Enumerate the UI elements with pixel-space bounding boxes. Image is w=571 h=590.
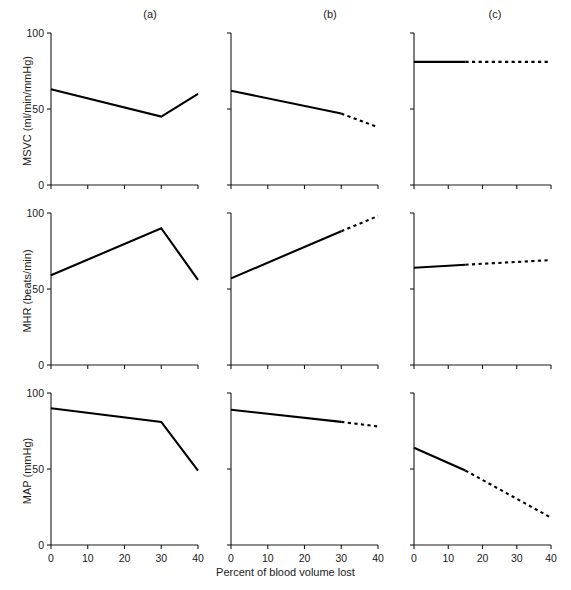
panel-c-msvc <box>410 33 551 189</box>
axis-spines <box>414 393 551 545</box>
data-line-measured <box>231 410 341 422</box>
x-tick-label: 20 <box>119 552 131 564</box>
data-line-measured <box>51 408 198 470</box>
y-tick-label: 50 <box>32 103 44 115</box>
x-tick-label: 20 <box>477 552 489 564</box>
x-tick-label: 30 <box>155 552 167 564</box>
y-tick-label: 0 <box>38 179 44 191</box>
y-tick-label: 50 <box>32 463 44 475</box>
data-line-measured <box>51 89 198 116</box>
y-tick-label: 50 <box>32 283 44 295</box>
axis-spines <box>51 213 198 365</box>
panel-a-msvc: 050100 <box>26 27 198 191</box>
data-line-measured <box>231 231 341 278</box>
axis-spines <box>231 213 378 365</box>
xlabel-percent-blood-volume-lost: Percent of blood volume lost <box>0 566 571 578</box>
panel-label-a: (a) <box>80 8 220 20</box>
data-line-extrapolated <box>465 471 551 518</box>
data-line-extrapolated <box>465 260 551 265</box>
figure-panel-grid: (a) (b) (c) MSVC (ml/min/mmHg) MHR (beat… <box>0 0 571 590</box>
x-tick-label: 0 <box>228 552 234 564</box>
data-line-extrapolated <box>341 422 378 427</box>
x-tick-label: 0 <box>411 552 417 564</box>
x-tick-label: 10 <box>82 552 94 564</box>
y-tick-label: 0 <box>38 359 44 371</box>
ylabel-map: MAP (mmHg) <box>21 396 33 546</box>
x-tick-label: 10 <box>442 552 454 564</box>
panel-a-map: 050100010203040 <box>26 387 204 564</box>
axis-spines <box>51 393 198 545</box>
axis-spines <box>231 33 378 185</box>
ylabel-msvc: MSVC (ml/min/mmHg) <box>21 36 33 186</box>
panel-b-msvc <box>227 33 378 189</box>
panel-b-mhr <box>227 213 378 369</box>
panel-c-mhr <box>410 213 551 369</box>
x-tick-label: 20 <box>299 552 311 564</box>
axis-spines <box>414 213 551 365</box>
data-line-extrapolated <box>341 216 378 231</box>
panel-b-map: 010203040 <box>227 393 384 564</box>
data-line-measured <box>414 265 465 268</box>
axis-spines <box>51 33 198 185</box>
x-tick-label: 40 <box>545 552 557 564</box>
panel-c-map: 010203040 <box>410 393 557 564</box>
x-tick-label: 10 <box>262 552 274 564</box>
panel-label-c: (c) <box>425 8 565 20</box>
x-tick-label: 30 <box>335 552 347 564</box>
panel-label-b: (b) <box>260 8 400 20</box>
data-line-measured <box>231 91 341 114</box>
plot-canvas: 0501000501000501000102030400102030400102… <box>0 0 571 590</box>
axis-spines <box>414 33 551 185</box>
x-tick-label: 0 <box>48 552 54 564</box>
data-line-measured <box>51 228 198 280</box>
data-line-measured <box>414 448 465 471</box>
x-tick-label: 30 <box>511 552 523 564</box>
panel-a-mhr: 050100 <box>26 207 198 371</box>
x-tick-label: 40 <box>192 552 204 564</box>
axis-spines <box>231 393 378 545</box>
ylabel-mhr: MHR (beats/min) <box>21 216 33 366</box>
data-line-extrapolated <box>341 114 378 128</box>
y-tick-label: 0 <box>38 539 44 551</box>
x-tick-label: 40 <box>372 552 384 564</box>
